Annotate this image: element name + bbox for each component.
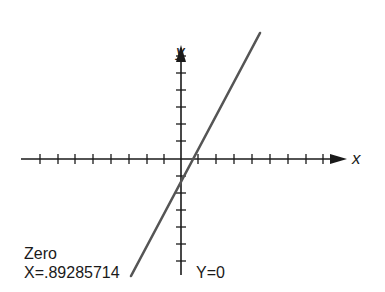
zero-annotation: Zero X=.89285714: [24, 244, 120, 282]
zero-value: X=.89285714: [24, 263, 120, 282]
plotted-line: [131, 33, 260, 276]
x-axis-label: x: [352, 149, 361, 169]
x-axis: [21, 154, 347, 164]
y-axis: [176, 45, 186, 275]
x-axis-arrow-icon: [330, 154, 347, 164]
y-axis-label: y: [176, 42, 185, 62]
zero-title: Zero: [24, 244, 120, 263]
y-value-annotation: Y=0: [196, 263, 225, 282]
